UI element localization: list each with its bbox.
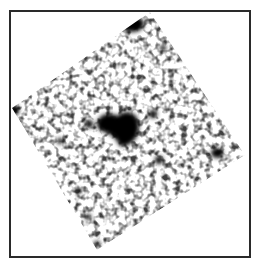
astronomical-image	[9, 10, 251, 258]
left-edge-patch	[9, 104, 19, 116]
image-frame	[9, 10, 251, 258]
right-point-source	[211, 148, 223, 158]
upper-right-source	[149, 110, 157, 118]
upper-left-source	[85, 120, 93, 128]
mid-point-source	[155, 156, 163, 164]
top-dark-patch	[120, 16, 144, 32]
